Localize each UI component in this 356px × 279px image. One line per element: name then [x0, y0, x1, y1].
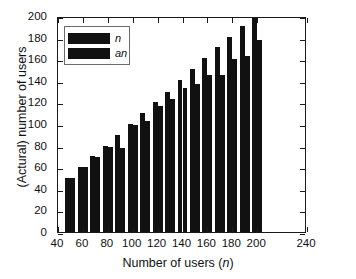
y-tick-60	[58, 169, 63, 170]
figure-canvas: (Actural) number of users Number of user…	[0, 0, 356, 279]
plot-area: n an	[57, 17, 306, 233]
legend-item-n: n	[68, 31, 126, 45]
x-tick-100	[133, 227, 134, 232]
x-tick-top-240	[307, 18, 308, 23]
y-tick-label-200: 200	[3, 11, 47, 23]
y-tick-right-40	[300, 191, 305, 192]
bar-an-100	[133, 125, 138, 232]
x-tick-top-160	[207, 18, 208, 23]
x-tick-80	[108, 227, 109, 232]
y-tick-right-20	[300, 212, 305, 213]
y-tick-label-120: 120	[3, 97, 47, 109]
x-tick-60	[83, 227, 84, 232]
legend-label-an: an	[115, 48, 127, 59]
x-tick-label-200: 200	[236, 238, 276, 250]
legend-swatch-an	[68, 48, 110, 59]
y-tick-label-160: 160	[3, 54, 47, 66]
x-axis-title: Number of users (n)	[0, 256, 356, 270]
y-tick-label-140: 140	[3, 76, 47, 88]
bar-an-150	[195, 84, 200, 232]
bar-an-160	[207, 75, 212, 232]
y-tick-100	[58, 126, 63, 127]
x-axis-title-prefix: Number of users (	[122, 256, 222, 270]
bar-an-130	[170, 99, 175, 232]
y-tick-120	[58, 104, 63, 105]
y-tick-right-80	[300, 148, 305, 149]
y-tick-right-60	[300, 169, 305, 170]
x-tick-160	[207, 227, 208, 232]
x-tick-180	[232, 227, 233, 232]
y-tick-right-200	[300, 18, 305, 19]
y-tick-80	[58, 148, 63, 149]
y-tick-right-160	[300, 61, 305, 62]
x-axis-title-suffix: )	[229, 256, 233, 270]
bar-an-80	[108, 147, 113, 232]
bar-an-70	[95, 157, 100, 232]
x-tick-top-100	[133, 18, 134, 23]
y-tick-0	[58, 234, 63, 235]
bar-an-110	[145, 121, 150, 232]
y-tick-right-0	[300, 234, 305, 235]
y-tick-label-40: 40	[3, 184, 47, 196]
x-tick-120	[158, 227, 159, 232]
x-tick-top-200	[257, 18, 258, 23]
x-tick-140	[183, 227, 184, 232]
y-tick-140	[58, 83, 63, 84]
x-tick-top-60	[83, 18, 84, 23]
y-tick-label-20: 20	[3, 205, 47, 217]
x-tick-top-120	[158, 18, 159, 23]
x-tick-240	[307, 227, 308, 232]
y-tick-20	[58, 212, 63, 213]
y-tick-160	[58, 61, 63, 62]
x-tick-200	[257, 227, 258, 232]
bar-an-60	[83, 167, 88, 232]
bar-an-120	[158, 106, 163, 232]
legend-label-n: n	[115, 33, 121, 44]
bar-an-170	[220, 75, 225, 232]
bar-an-200	[257, 40, 262, 232]
y-tick-180	[58, 40, 63, 41]
y-tick-right-100	[300, 126, 305, 127]
bar-an-190	[245, 56, 250, 232]
x-tick-label-240: 240	[286, 238, 326, 250]
bar-an-50	[70, 178, 75, 232]
legend-swatch-n	[68, 33, 110, 44]
x-tick-top-80	[108, 18, 109, 23]
y-tick-label-180: 180	[3, 33, 47, 45]
y-tick-label-0: 0	[3, 227, 47, 239]
x-tick-top-40	[58, 18, 59, 23]
legend-item-an: an	[68, 46, 126, 60]
y-tick-label-60: 60	[3, 162, 47, 174]
bar-an-180	[232, 59, 237, 232]
y-tick-40	[58, 191, 63, 192]
y-tick-right-140	[300, 83, 305, 84]
y-tick-label-80: 80	[3, 141, 47, 153]
x-tick-40	[58, 227, 59, 232]
y-tick-right-120	[300, 104, 305, 105]
x-tick-top-140	[183, 18, 184, 23]
y-tick-label-100: 100	[3, 119, 47, 131]
y-tick-right-180	[300, 40, 305, 41]
x-tick-top-180	[232, 18, 233, 23]
chart-legend: n an	[64, 26, 130, 65]
bar-an-140	[183, 88, 188, 232]
bar-an-90	[120, 148, 125, 232]
